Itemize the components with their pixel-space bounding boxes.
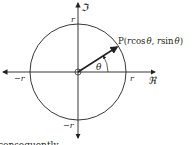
imag-axis-label: ℑ <box>81 2 90 13</box>
tick-label-left: −r <box>14 74 26 83</box>
real-axis-label: ℜ <box>148 75 157 86</box>
polar-diagram: ℑ ℜ r r −r −r θ P(rcosθ, rsinθ) conseque… <box>0 0 194 145</box>
point-label: P(rcosθ, rsinθ) <box>118 36 183 46</box>
tick-label-top: r <box>71 15 76 24</box>
footer-text-partial: consequently <box>0 140 59 145</box>
angle-label: θ <box>96 62 102 72</box>
angle-arc <box>103 56 108 72</box>
tick-label-right: r <box>130 74 135 83</box>
tick-label-bottom: −r <box>63 121 75 130</box>
